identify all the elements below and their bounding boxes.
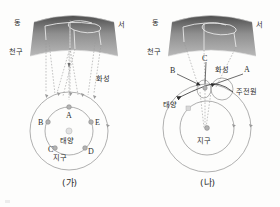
mars-label-ga: 화성	[96, 74, 110, 83]
earth-marker-na	[205, 126, 210, 131]
mars-label-na: 화성	[215, 65, 229, 74]
mars-position-label-b: B	[170, 66, 175, 75]
epicycle-label-na: 주전원	[236, 87, 257, 96]
page-artifact	[5, 200, 10, 203]
direction-east-label-na: 동	[152, 18, 159, 27]
earth-position-label-a: A	[66, 111, 72, 120]
celestial-sphere-band-na	[168, 16, 256, 57]
direction-west-label-na: 서	[256, 20, 263, 29]
sun-marker-ga	[66, 128, 72, 134]
earth-position-marker-c	[53, 146, 58, 151]
sun-label-na: 태양	[163, 100, 177, 109]
earth-position-label-d: D	[88, 147, 94, 156]
celestial-sphere-label-ga: 천구	[9, 47, 23, 56]
mars-position-label-a: A	[244, 65, 250, 74]
celestial-sphere-label-na: 천구	[147, 47, 161, 56]
mars-marker-na	[203, 86, 207, 90]
direction-east-label-ga: 동	[14, 18, 21, 27]
figure-canvas: 동 서 천구 화성 태양	[0, 0, 280, 207]
earth-label-ga: 지구	[53, 153, 67, 162]
celestial-sphere-band-ga	[30, 16, 118, 57]
astronomy-diagram: 동 서 천구 화성 태양	[0, 0, 280, 207]
panel-caption-ga: (가)	[62, 178, 77, 188]
sun-label-ga: 태양	[60, 136, 74, 145]
earth-position-marker-e	[89, 120, 94, 125]
sun-marker-na	[186, 106, 191, 111]
earth-position-marker-b	[46, 120, 51, 125]
direction-west-label-ga: 서	[118, 20, 125, 29]
mars-position-label-c: C	[202, 54, 207, 63]
earth-label-na: 지구	[197, 136, 211, 145]
earth-position-marker-a	[67, 105, 72, 110]
panel-caption-na: (나)	[200, 178, 215, 188]
earth-position-marker-d	[83, 146, 88, 151]
earth-position-label-b: B	[38, 118, 43, 127]
earth-position-label-e: E	[95, 118, 100, 127]
